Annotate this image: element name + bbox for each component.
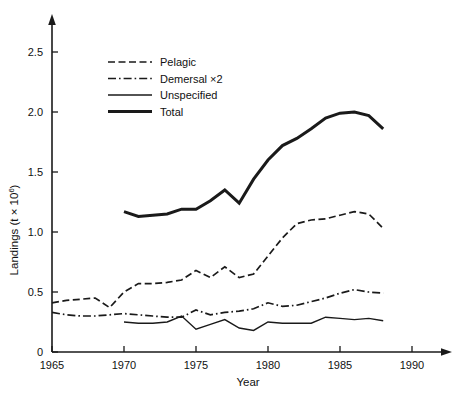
chart-figure: 00.51.01.52.02.5 19651970197519801985199… [0,0,460,394]
y-tick-label: 1.0 [28,226,43,238]
y-tick-label: 0 [37,346,43,358]
y-axis [48,14,56,352]
y-tick-group: 00.51.01.52.02.5 [28,46,58,358]
line-chart-canvas: 00.51.01.52.02.5 19651970197519801985199… [0,0,460,394]
series-line-demersal-2 [52,290,383,318]
x-tick-label: 1980 [256,359,280,371]
y-axis-title-tail: ) [8,184,20,188]
series-line-total [124,112,383,216]
legend-label-pelagic: Pelagic [160,56,197,68]
y-axis-title: Landings (t × 106) [7,184,20,275]
x-tick-label: 1990 [400,359,424,371]
y-tick-label: 2.5 [28,46,43,58]
y-tick-label: 0.5 [28,286,43,298]
x-tick-group: 196519701975198019851990 [40,346,424,371]
legend-label-demersal-2: Demersal ×2 [160,73,223,85]
x-tick-label: 1965 [40,359,64,371]
chart-legend: PelagicDemersal ×2UnspecifiedTotal [108,56,223,118]
series-line-pelagic [52,212,383,308]
legend-label-unspecified: Unspecified [160,89,217,101]
legend-label-total: Total [160,106,183,118]
svg-text:Landings (t × 106): Landings (t × 106) [7,184,20,275]
x-tick-label: 1975 [184,359,208,371]
x-tick-label: 1970 [112,359,136,371]
series-line-unspecified [124,316,383,330]
x-axis-title: Year [236,376,259,388]
y-tick-label: 1.5 [28,166,43,178]
x-axis [52,348,452,356]
x-tick-label: 1985 [328,359,352,371]
series-group [52,112,383,330]
y-axis-title-text: Landings (t × 10 [8,193,20,276]
y-tick-label: 2.0 [28,106,43,118]
